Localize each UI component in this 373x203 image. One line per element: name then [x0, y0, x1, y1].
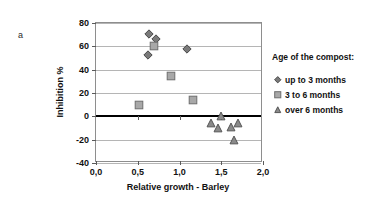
x-tick-label: 0,5 — [131, 167, 144, 177]
x-tick-inner-mark — [180, 116, 181, 120]
y-tick-label: 20 — [79, 88, 89, 98]
data-point-square — [167, 71, 176, 80]
gridline — [96, 70, 261, 71]
x-tick-mark — [96, 161, 97, 165]
y-tick-label: -40 — [76, 158, 89, 168]
legend-item-label: over 6 months — [285, 105, 343, 115]
zero-line — [96, 115, 261, 117]
gridline — [96, 93, 261, 94]
legend: Age of the compost: up to 3 months3 to 6… — [272, 52, 372, 118]
x-tick-label: 0,0 — [90, 167, 103, 177]
data-point-square — [188, 96, 197, 105]
legend-entries: up to 3 months3 to 6 monthsover 6 months — [272, 73, 372, 116]
x-tick-label: 1,0 — [173, 167, 186, 177]
legend-item-label: up to 3 months — [285, 75, 346, 85]
y-axis-title: Inhibition % — [55, 67, 65, 118]
y-tick-mark — [92, 140, 96, 141]
plot-area: 806040200-20-40 0,00,51,01,52,0 — [95, 22, 262, 162]
x-tick-label: 1,5 — [215, 167, 228, 177]
y-tick-label: 0 — [84, 111, 89, 121]
x-tick-inner-mark — [138, 116, 139, 120]
data-point-diamond — [182, 44, 192, 54]
diamond-marker-icon — [272, 74, 283, 85]
legend-item-square[interactable]: 3 to 6 months — [272, 88, 372, 101]
data-point-triangle — [217, 112, 227, 122]
legend-title: Age of the compost: — [272, 52, 372, 62]
y-tick-mark — [92, 93, 96, 94]
x-tick-mark — [263, 161, 264, 165]
legend-item-diamond[interactable]: up to 3 months — [272, 73, 372, 86]
data-point-triangle — [213, 123, 223, 133]
gridline — [96, 23, 261, 24]
legend-item-label: 3 to 6 months — [285, 90, 340, 100]
y-tick-label: -20 — [76, 135, 89, 145]
x-tick-mark — [138, 161, 139, 165]
square-marker-icon — [272, 89, 283, 100]
x-tick-label: 2,0 — [257, 167, 270, 177]
y-tick-label: 40 — [79, 65, 89, 75]
gridline — [96, 163, 261, 164]
triangle-marker-icon — [272, 104, 283, 115]
x-axis-title: Relative growth - Barley — [127, 182, 230, 192]
y-tick-label: 60 — [79, 41, 89, 51]
y-tick-label: 80 — [79, 18, 89, 28]
x-tick-mark — [221, 161, 222, 165]
legend-item-triangle[interactable]: over 6 months — [272, 103, 372, 116]
y-tick-mark — [92, 70, 96, 71]
y-tick-mark — [92, 116, 96, 117]
data-point-triangle — [229, 135, 239, 145]
y-tick-mark — [92, 23, 96, 24]
data-point-diamond — [143, 50, 153, 60]
y-tick-mark — [92, 46, 96, 47]
data-point-triangle — [233, 119, 243, 129]
x-tick-mark — [180, 161, 181, 165]
scatter-chart: Inhibition % Relative growth - Barley 80… — [0, 0, 373, 203]
gridline — [96, 46, 261, 47]
data-point-square — [150, 42, 159, 51]
data-point-square — [135, 100, 144, 109]
